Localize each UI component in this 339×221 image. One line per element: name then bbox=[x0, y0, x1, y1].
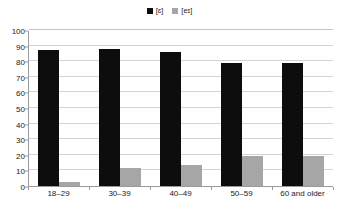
y-tick-label-100: 100 bbox=[12, 27, 25, 36]
bar-series-2 bbox=[59, 182, 80, 186]
bar-series-2 bbox=[242, 156, 263, 186]
y-tick-label-10: 10 bbox=[16, 167, 25, 176]
x-tick-label-1: 30–39 bbox=[89, 189, 150, 199]
x-axis: 18–2930–3940–4950–5960 and older bbox=[28, 189, 333, 199]
y-tick-label-90: 90 bbox=[16, 42, 25, 51]
y-tick-label-30: 30 bbox=[16, 136, 25, 145]
bar-series-2 bbox=[303, 156, 324, 186]
y-axis: 1009080706050403020100 bbox=[0, 31, 25, 187]
y-tick-label-70: 70 bbox=[16, 73, 25, 82]
legend-entry-eps: [ɛ] bbox=[147, 7, 164, 15]
bars-layer bbox=[29, 31, 333, 186]
bar-series-1 bbox=[282, 63, 303, 186]
bar-group bbox=[90, 31, 151, 186]
legend-label-series-1: [ɛ] bbox=[156, 7, 164, 15]
y-tick-label-20: 20 bbox=[16, 151, 25, 160]
bar-series-2 bbox=[181, 165, 202, 186]
bar-group bbox=[211, 31, 272, 186]
x-tick-label-3: 50–59 bbox=[211, 189, 272, 199]
bar-group bbox=[272, 31, 333, 186]
x-tick-label-4: 60 and older bbox=[272, 189, 333, 199]
y-tick-label-60: 60 bbox=[16, 89, 25, 98]
bar-chart: [ɛ] [eɪ] 1009080706050403020100 18–2930–… bbox=[0, 0, 339, 221]
x-tick-mark-5 bbox=[333, 187, 334, 190]
gridline-100 bbox=[29, 29, 333, 30]
legend-entry-ei: [eɪ] bbox=[172, 7, 192, 15]
plot-area bbox=[28, 31, 333, 187]
bar-series-1 bbox=[38, 50, 59, 186]
bar-series-1 bbox=[160, 52, 181, 186]
y-tick-label-80: 80 bbox=[16, 58, 25, 67]
y-tick-label-40: 40 bbox=[16, 120, 25, 129]
x-tick-label-0: 18–29 bbox=[28, 189, 89, 199]
bar-series-1 bbox=[221, 63, 242, 186]
bar-group bbox=[29, 31, 90, 186]
chart-legend: [ɛ] [eɪ] bbox=[0, 7, 339, 15]
bar-group bbox=[151, 31, 212, 186]
bar-series-2 bbox=[120, 168, 141, 186]
y-tick-label-50: 50 bbox=[16, 105, 25, 114]
bar-series-1 bbox=[99, 49, 120, 186]
legend-swatch-icon-series-2 bbox=[172, 8, 178, 14]
legend-swatch-icon-series-1 bbox=[147, 8, 153, 14]
legend-label-series-2: [eɪ] bbox=[181, 7, 192, 15]
x-tick-label-2: 40–49 bbox=[150, 189, 211, 199]
